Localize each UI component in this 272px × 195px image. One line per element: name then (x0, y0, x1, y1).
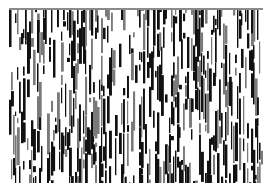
noise-texture-image (9, 8, 263, 183)
top-border-line (9, 8, 263, 10)
streak-pattern (9, 8, 263, 183)
